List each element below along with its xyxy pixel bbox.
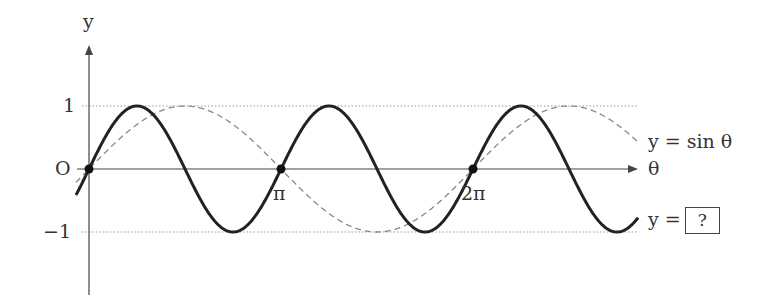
- tick-label-1: 1: [63, 96, 75, 115]
- chart-canvas: [0, 0, 766, 304]
- point-pi: [277, 165, 286, 174]
- x-axis-label: θ: [648, 159, 659, 178]
- unknown-curve-label: y =?: [648, 207, 720, 234]
- y-axis-label: y: [83, 12, 94, 31]
- tick-label-pi: π: [273, 184, 286, 203]
- origin-label: O: [55, 159, 71, 178]
- unknown-prefix: y =: [648, 208, 681, 230]
- tick-label-minus1: −1: [43, 222, 71, 241]
- x-axis-arrow-icon: [628, 165, 638, 173]
- point-origin: [85, 165, 94, 174]
- tick-label-2pi: 2π: [461, 184, 486, 203]
- answer-box[interactable]: ?: [685, 207, 720, 234]
- sin-curve-label: y = sin θ: [648, 132, 732, 151]
- y-axis-arrow-icon: [85, 45, 93, 55]
- point-2pi: [469, 165, 478, 174]
